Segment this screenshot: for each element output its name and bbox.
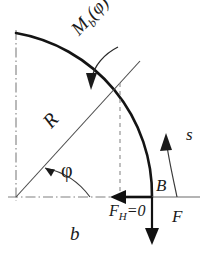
mechanics-diagram-figure: R Mb(φ) φ B s F FH=0 b: [0, 0, 219, 262]
horizontal-force-subscript: H: [119, 210, 127, 222]
angle-label: φ: [61, 160, 73, 180]
vertical-force-label: F: [172, 208, 182, 225]
radius-line: [16, 61, 140, 197]
horizontal-force-symbol: F: [109, 202, 119, 219]
s-curved-arrow: [167, 146, 177, 197]
s-arrow-head: [160, 133, 172, 151]
arc-coordinate-label: s: [186, 126, 193, 143]
vertical-force-arrowhead: [145, 228, 159, 245]
horizontal-force-value: =0: [127, 202, 146, 219]
quarter-arc-beam: [16, 33, 152, 197]
angle-arc-arrowhead: [45, 168, 55, 177]
moment-arrow-head: [86, 73, 97, 90]
point-b-label: B: [156, 177, 166, 194]
figure-caption: b: [70, 224, 80, 243]
horizontal-force-label: FH=0: [109, 203, 146, 222]
